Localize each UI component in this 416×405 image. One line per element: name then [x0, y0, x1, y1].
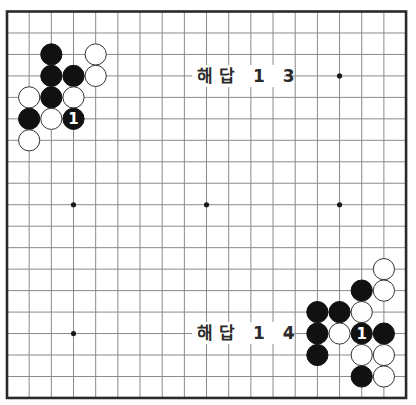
black-stone-icon — [41, 65, 62, 86]
black-stone — [41, 87, 62, 108]
black-stone-icon — [373, 323, 394, 344]
white-stone — [63, 87, 84, 108]
star-point — [71, 202, 76, 207]
white-stone-icon — [329, 323, 350, 344]
black-stone — [63, 65, 84, 86]
black-stone-icon — [19, 108, 40, 129]
white-stone-icon — [351, 344, 372, 365]
black-stone — [373, 323, 394, 344]
white-stone — [85, 65, 106, 86]
go-board-diagram: 해답 1 3해답 1 4 11 — [0, 0, 416, 405]
white-stone — [373, 344, 394, 365]
white-stone-icon — [373, 280, 394, 301]
black-stone — [351, 280, 372, 301]
white-stone-icon — [373, 259, 394, 280]
black-stone-icon — [307, 323, 328, 344]
white-stone-icon — [63, 87, 84, 108]
white-stone — [351, 301, 372, 322]
black-stone — [329, 301, 350, 322]
label-text: 해답 1 3 — [197, 66, 301, 86]
black-stone — [307, 301, 328, 322]
black-stone — [41, 65, 62, 86]
white-stone-icon — [373, 366, 394, 387]
white-stone — [41, 108, 62, 129]
star-point — [337, 73, 342, 78]
star-point — [71, 331, 76, 336]
white-stone — [329, 323, 350, 344]
go-board: 해답 1 3해답 1 4 11 — [0, 0, 416, 405]
white-stone-icon — [373, 344, 394, 365]
star-point — [337, 202, 342, 207]
black-stone-icon — [351, 366, 372, 387]
white-stone-icon — [85, 65, 106, 86]
black-stone-icon — [329, 301, 350, 322]
star-point — [204, 202, 209, 207]
white-stone — [19, 87, 40, 108]
white-stone — [373, 280, 394, 301]
solution-14-label: 해답 1 4 — [192, 322, 301, 344]
white-stone — [19, 130, 40, 151]
black-stone — [307, 323, 328, 344]
black-stone-icon — [307, 301, 328, 322]
white-stone — [351, 344, 372, 365]
move-number: 1 — [357, 325, 367, 343]
white-stone-icon — [19, 130, 40, 151]
white-stone-icon — [41, 108, 62, 129]
white-stone-icon — [351, 301, 372, 322]
move-number: 1 — [68, 110, 78, 128]
white-stone-icon — [85, 44, 106, 65]
white-stone-icon — [19, 87, 40, 108]
black-stone-icon — [41, 87, 62, 108]
black-stone — [19, 108, 40, 129]
black-stone-icon — [63, 65, 84, 86]
white-stone — [85, 44, 106, 65]
solution-13-label: 해답 1 3 — [192, 65, 301, 87]
label-text: 해답 1 4 — [197, 323, 301, 343]
black-stone — [41, 44, 62, 65]
black-stone-icon — [307, 344, 328, 365]
black-stone-icon — [41, 44, 62, 65]
white-stone — [373, 259, 394, 280]
white-stone — [373, 366, 394, 387]
black-stone — [307, 344, 328, 365]
black-stone-icon — [351, 280, 372, 301]
black-stone — [351, 366, 372, 387]
black-stone: 1 — [63, 108, 84, 129]
black-stone: 1 — [351, 323, 372, 344]
